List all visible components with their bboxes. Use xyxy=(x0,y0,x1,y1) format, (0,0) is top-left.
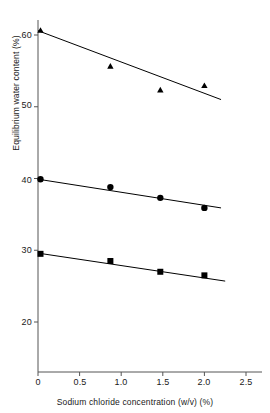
trend-line-triangle xyxy=(38,31,221,100)
y-tick-label-50: 50 xyxy=(8,100,32,110)
chart-figure: Equilibrium water content (%) Sodium chl… xyxy=(0,0,270,413)
data-point-circle xyxy=(37,176,43,182)
data-point-square xyxy=(107,258,113,264)
data-point-square xyxy=(157,269,163,275)
x-tick-label-1-5: 1.5 xyxy=(156,377,169,387)
plot-area xyxy=(0,0,270,413)
y-tick-label-40: 40 xyxy=(8,175,32,185)
data-point-circle xyxy=(201,205,207,211)
x-tick-label-2-0: 2.0 xyxy=(197,377,210,387)
data-point-triangle xyxy=(107,63,113,69)
x-tick-label-2-5: 2.5 xyxy=(239,377,252,387)
data-point-triangle xyxy=(201,82,207,88)
x-axis-title: Sodium chloride concentration (w/v) (%) xyxy=(0,397,270,407)
trend-line-circle xyxy=(38,179,221,208)
y-axis-title: Equilibrium water content (%) xyxy=(11,0,21,193)
data-point-circle xyxy=(107,184,113,190)
y-tick-label-60: 60 xyxy=(8,30,32,40)
y-tick-label-20: 20 xyxy=(8,317,32,327)
data-point-square xyxy=(201,272,207,278)
data-point-triangle xyxy=(157,87,163,93)
x-tick-label-1-0: 1.0 xyxy=(114,377,127,387)
data-point-circle xyxy=(157,195,163,201)
x-tick-label-0-5: 0.5 xyxy=(73,377,86,387)
x-tick-label-0: 0 xyxy=(35,377,40,387)
trend-line-square xyxy=(38,253,225,281)
y-tick-label-30: 30 xyxy=(8,245,32,255)
data-point-square xyxy=(37,251,43,257)
